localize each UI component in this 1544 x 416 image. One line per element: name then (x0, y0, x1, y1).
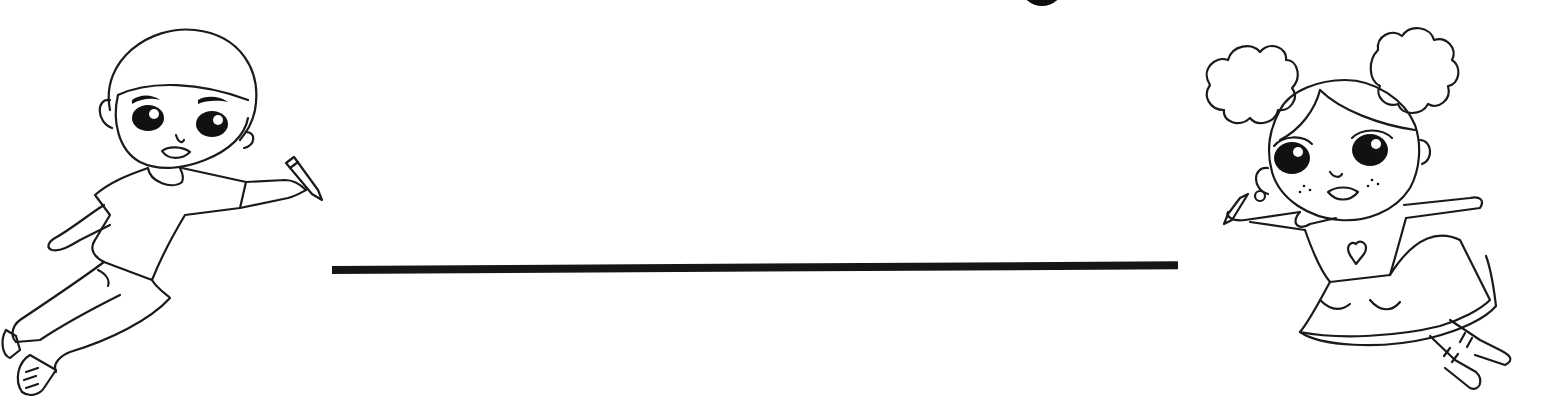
name-writing-line: Name writing line (332, 261, 1178, 274)
title-glyph-fragment (1021, 0, 1063, 6)
boy-illustration: Boy flying with a crayon (0, 0, 340, 416)
girl-illustration: Girl with puff hair buns flying with a c… (1180, 0, 1544, 416)
